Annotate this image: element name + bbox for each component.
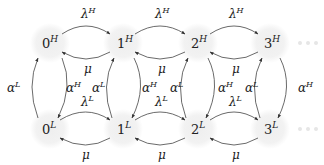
svg-text:μ: μ: [232, 148, 240, 162]
alpha-labels: αL αH αL αH αL αH αL αH: [7, 80, 314, 95]
svg-text:αL: αL: [92, 80, 105, 95]
lambda-low-labels: λL λL λL: [80, 94, 242, 109]
lambda-high-labels: λH λH λH: [80, 6, 245, 21]
svg-text:λH: λH: [154, 6, 171, 21]
svg-text:μ: μ: [158, 62, 166, 76]
svg-text:μ: μ: [158, 148, 166, 162]
low-nodes: 0L 1L 2L 3L: [42, 120, 278, 137]
svg-text:λL: λL: [80, 94, 94, 109]
svg-text:λL: λL: [228, 94, 242, 109]
low-row-edges: [60, 112, 258, 145]
mu-low-labels: μ μ μ: [82, 148, 240, 162]
svg-text:λL: λL: [154, 94, 168, 109]
svg-text:αH: αH: [298, 80, 314, 95]
svg-text:αH: αH: [218, 80, 234, 95]
svg-text:λH: λH: [80, 6, 97, 21]
svg-text:αL: αL: [7, 80, 20, 95]
mu-high-labels: μ μ μ: [84, 62, 240, 76]
svg-text:αL: αL: [170, 80, 183, 95]
svg-text:μ: μ: [82, 148, 90, 162]
svg-text:μ: μ: [84, 62, 92, 76]
svg-text:αH: αH: [142, 80, 158, 95]
svg-text:μ: μ: [232, 62, 240, 76]
high-row-edges: [62, 26, 258, 59]
svg-text:αL: αL: [245, 80, 258, 95]
svg-text:λH: λH: [228, 6, 245, 21]
markov-chain-diagram: 0H 1H 2H 3H 0L 1L 2L 3L λH λH λH μ μ μ α…: [0, 0, 324, 165]
high-nodes: 0H 1H 2H 3H: [42, 34, 280, 51]
svg-text:αH: αH: [66, 80, 82, 95]
